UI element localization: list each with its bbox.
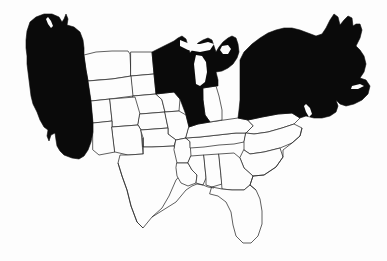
state-arkansas [174, 138, 191, 163]
state-colorado [110, 97, 140, 127]
us-thematic-map-figure [0, 0, 387, 261]
state-new-mexico [112, 125, 143, 155]
state-arizona [93, 121, 115, 155]
state-south-dakota [131, 74, 156, 96]
state-montana [84, 51, 131, 81]
us-map-svg [0, 0, 387, 261]
state-utah [91, 99, 112, 123]
state-north-dakota [131, 52, 154, 76]
state-kansas [138, 112, 168, 130]
